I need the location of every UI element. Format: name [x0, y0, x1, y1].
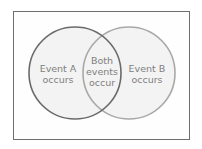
label-event-a-line-2: occurs	[42, 74, 73, 85]
venn-diagram: Event A occurs Both events occur Event B…	[0, 0, 202, 149]
label-event-b-line-2: occurs	[131, 74, 162, 85]
label-event-b: Event B occurs	[129, 63, 166, 85]
label-intersection-line-1: Both	[91, 55, 113, 66]
label-event-b-line-1: Event B	[129, 63, 166, 74]
label-event-a: Event A occurs	[40, 63, 77, 85]
label-event-a-line-1: Event A	[40, 63, 77, 74]
label-intersection-line-3: occur	[89, 77, 115, 88]
label-intersection-line-2: events	[86, 66, 118, 77]
